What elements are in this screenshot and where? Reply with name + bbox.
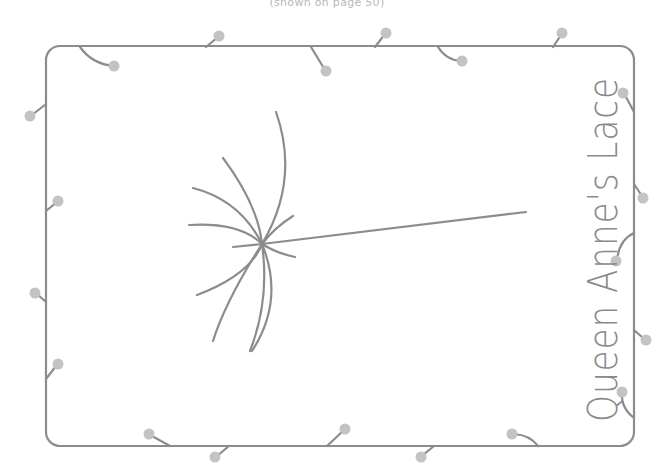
border-pins-bottom xyxy=(144,424,539,463)
pin-dot xyxy=(638,193,649,204)
pin-dot xyxy=(25,111,36,122)
flower-spoke xyxy=(223,158,264,351)
pin-dot xyxy=(340,424,351,435)
pin-dot xyxy=(144,429,155,440)
border-pins-left xyxy=(25,104,64,379)
pin-dot xyxy=(53,196,64,207)
pin-dot xyxy=(507,429,518,440)
pin-dot xyxy=(641,335,652,346)
pin-dot xyxy=(214,31,225,42)
border-pins-top xyxy=(80,28,568,77)
flower-spoke xyxy=(193,188,271,351)
template-border xyxy=(46,46,634,446)
pin-stem xyxy=(80,47,114,66)
pin-dot xyxy=(109,61,120,72)
pin-stem xyxy=(327,431,343,446)
pin-stem xyxy=(625,95,634,112)
pin-dot xyxy=(416,452,427,463)
pin-dot xyxy=(53,359,64,370)
pin-dot xyxy=(381,28,392,39)
pin-dot xyxy=(457,56,468,67)
flower-name-label: Queen Anne's Lace xyxy=(580,77,626,422)
pin-stem xyxy=(514,434,538,446)
pin-dot xyxy=(30,288,41,299)
pin-dot xyxy=(321,66,332,77)
pin-stem xyxy=(152,436,170,446)
flower-stem xyxy=(262,212,526,244)
pin-dot xyxy=(557,28,568,39)
pattern-template: Queen Anne's Lace xyxy=(0,0,654,469)
pin-dot xyxy=(210,452,221,463)
flower-umbel xyxy=(189,112,526,351)
